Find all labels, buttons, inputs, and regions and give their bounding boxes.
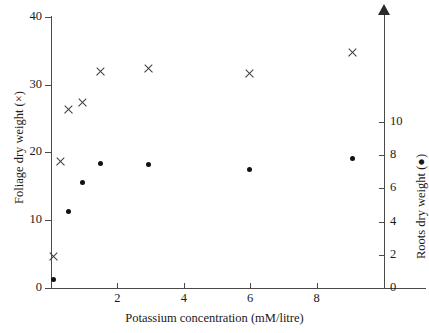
y-right-tick-label: 0: [390, 281, 396, 294]
roots-data-point: [98, 161, 103, 166]
y-left-tick: [45, 85, 51, 86]
y-right-tick-label: 6: [390, 181, 396, 194]
foliage-data-point: [55, 156, 66, 167]
y-right-tick-label: 10: [390, 115, 403, 128]
x-tick-label: 6: [237, 292, 263, 305]
y-left-tick: [45, 152, 51, 153]
foliage-data-point: [347, 47, 358, 58]
roots-data-point: [80, 180, 85, 185]
y-right-tick: [379, 122, 385, 123]
y-right-tick: [379, 155, 385, 156]
x-tick: [184, 283, 185, 289]
y-right-axis-title: Roots dry weight (●): [414, 122, 429, 292]
foliage-data-point: [143, 63, 154, 74]
y-left-tick: [45, 220, 51, 221]
y-left-axis-title: Foliage dry weight (×): [12, 63, 27, 233]
x-tick-label: 4: [171, 292, 197, 305]
y-right-axis-line: [384, 14, 385, 289]
x-tick: [117, 283, 118, 289]
foliage-data-point: [48, 251, 59, 262]
roots-data-point: [247, 167, 252, 172]
y-right-axis-arrow-icon: [378, 4, 390, 15]
roots-data-point: [66, 209, 71, 214]
x-tick-label: 2: [104, 292, 130, 305]
foliage-data-point: [63, 104, 74, 115]
foliage-data-point: [95, 66, 106, 77]
y-right-tick: [379, 222, 385, 223]
y-right-tick-label: 2: [390, 248, 396, 261]
y-right-tick-label: 4: [390, 215, 396, 228]
x-tick-label: 8: [304, 292, 330, 305]
x-axis-title: Potassium concentration (mM/litre): [0, 311, 429, 326]
y-right-tick-label: 8: [390, 148, 396, 161]
x-axis-line: [51, 288, 426, 289]
y-right-tick: [379, 288, 385, 289]
roots-data-point: [350, 156, 355, 161]
y-left-tick: [45, 288, 51, 289]
x-tick: [317, 283, 318, 289]
y-left-tick-label: 40: [14, 10, 42, 23]
roots-data-point: [51, 277, 56, 282]
x-tick: [250, 283, 251, 289]
y-left-tick-label: 0: [14, 281, 42, 294]
y-left-axis-line: [51, 16, 52, 289]
foliage-data-point: [77, 97, 88, 108]
y-right-tick: [379, 188, 385, 189]
roots-data-point: [146, 162, 151, 167]
scatter-chart: 010203040 0246810 2468 Potassium concent…: [0, 0, 429, 333]
y-right-tick: [379, 255, 385, 256]
foliage-data-point: [244, 68, 255, 79]
y-left-tick: [45, 17, 51, 18]
